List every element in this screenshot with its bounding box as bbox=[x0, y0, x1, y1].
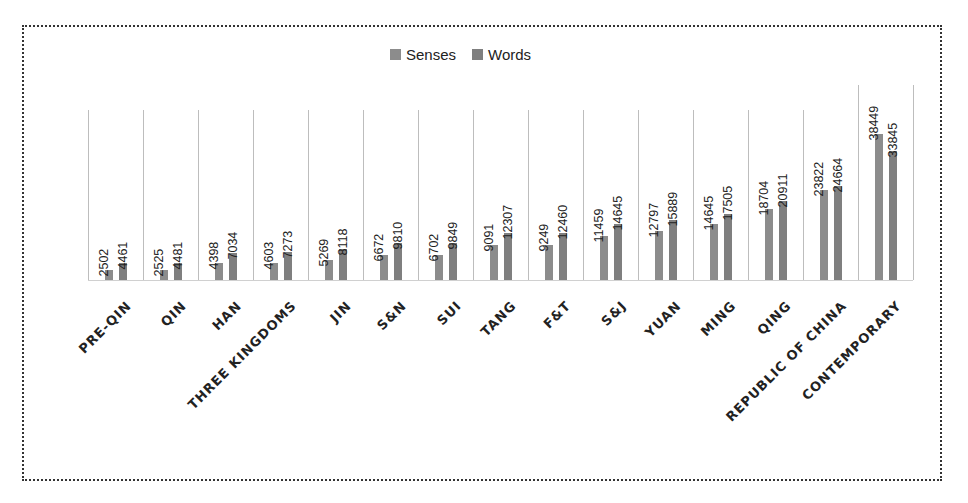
data-label-words: 17505 bbox=[722, 185, 735, 220]
data-label-words: 9810 bbox=[392, 221, 405, 249]
bar-words bbox=[724, 214, 732, 280]
data-label-words: 12460 bbox=[557, 204, 570, 239]
bar-words bbox=[614, 224, 622, 280]
category-separator bbox=[143, 110, 144, 280]
bar-words bbox=[779, 201, 787, 280]
category-separator bbox=[418, 110, 419, 280]
data-label-words: 15889 bbox=[667, 191, 680, 226]
data-label-words: 4481 bbox=[172, 242, 185, 270]
data-label-words: 20911 bbox=[777, 173, 790, 207]
category-separator bbox=[638, 110, 639, 280]
data-label-senses: 11459 bbox=[593, 209, 606, 243]
bar-words bbox=[559, 233, 567, 280]
data-label-words: 7034 bbox=[227, 232, 240, 260]
data-label-words: 14645 bbox=[612, 196, 625, 231]
category-separator bbox=[473, 110, 474, 280]
category-separator bbox=[748, 110, 749, 280]
data-label-senses: 14645 bbox=[703, 196, 716, 231]
data-label-senses: 6702 bbox=[428, 233, 441, 261]
category-separator bbox=[363, 110, 364, 280]
data-label-senses: 4398 bbox=[208, 242, 221, 270]
data-label-senses: 9249 bbox=[538, 224, 551, 252]
data-label-senses: 6672 bbox=[373, 233, 386, 261]
category-separator bbox=[528, 110, 529, 280]
data-label-senses: 9091 bbox=[483, 224, 496, 252]
data-label-words: 9849 bbox=[447, 221, 460, 249]
bar-senses bbox=[820, 190, 828, 280]
data-label-senses: 18704 bbox=[758, 181, 771, 216]
category-separator bbox=[198, 110, 199, 280]
data-label-senses: 2502 bbox=[98, 249, 111, 277]
legend-swatch-senses bbox=[390, 49, 401, 60]
data-label-senses: 38449 bbox=[868, 106, 881, 141]
data-label-senses: 2525 bbox=[153, 249, 166, 277]
data-label-words: 4461 bbox=[117, 242, 130, 270]
data-label-senses: 23822 bbox=[813, 161, 826, 196]
bar-words bbox=[834, 186, 842, 280]
data-label-words: 24664 bbox=[832, 158, 845, 193]
category-separator bbox=[913, 85, 914, 280]
category-separator bbox=[583, 110, 584, 280]
category-separator bbox=[693, 110, 694, 280]
data-label-senses: 5269 bbox=[318, 239, 331, 267]
category-separator bbox=[308, 110, 309, 280]
data-label-words: 7273 bbox=[282, 231, 295, 259]
data-label-words: 33845 bbox=[887, 123, 900, 158]
data-label-words: 8118 bbox=[337, 229, 350, 256]
category-separator bbox=[803, 110, 804, 280]
plot-area: 25024461PRE-QIN25254481QIN43987034HAN460… bbox=[88, 60, 914, 282]
category-separator bbox=[858, 85, 859, 280]
bar-senses bbox=[710, 224, 718, 280]
data-label-senses: 12797 bbox=[648, 203, 661, 238]
bar-senses bbox=[765, 209, 773, 280]
data-label-senses: 4603 bbox=[263, 241, 276, 269]
category-separator bbox=[88, 110, 89, 280]
bar-senses bbox=[600, 236, 608, 280]
bar-senses bbox=[875, 134, 883, 280]
category-separator bbox=[253, 110, 254, 280]
bar-words bbox=[504, 233, 512, 280]
x-axis-baseline bbox=[88, 280, 913, 281]
bar-senses bbox=[655, 231, 663, 280]
bar-words bbox=[889, 151, 897, 280]
data-label-words: 12307 bbox=[502, 205, 515, 240]
legend-swatch-words bbox=[472, 49, 483, 60]
bar-words bbox=[669, 220, 677, 280]
